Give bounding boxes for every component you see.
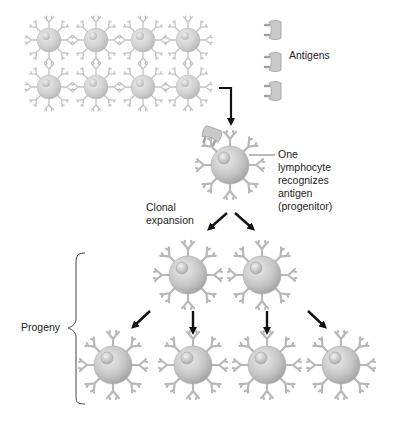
- progenitor-label-line2: lymphocyte: [278, 161, 331, 174]
- progeny-brace: [68, 253, 85, 404]
- antigens-label: Antigens: [289, 49, 330, 62]
- clonal-selection-diagram: [0, 0, 393, 427]
- progenitor-label-line3: recognizes: [278, 174, 329, 187]
- progenitor-label-line5: (progenitor): [278, 200, 332, 213]
- antigens-icon: [265, 21, 281, 101]
- clonal-expansion-label-line2: expansion: [146, 214, 194, 227]
- progenitor-label-line4: antigen: [278, 187, 312, 200]
- progeny-label: Progeny: [21, 321, 60, 334]
- first-generation-cells: [154, 241, 296, 309]
- initial-lymphocyte-population: [25, 16, 212, 111]
- progenitor-label-line1: One: [278, 148, 298, 161]
- clonal-expansion-label-line1: Clonal: [146, 201, 176, 214]
- selection-arrow: [219, 88, 231, 122]
- progenitor-cell: [196, 125, 264, 199]
- second-generation-cells: [79, 331, 375, 399]
